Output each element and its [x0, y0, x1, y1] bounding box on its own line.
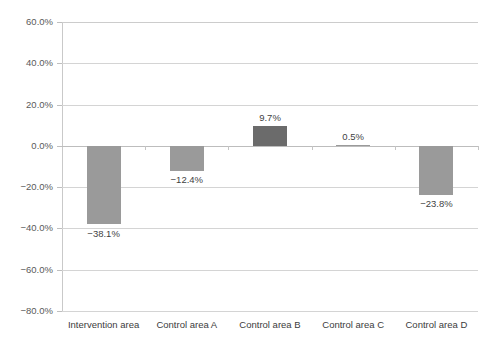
- x-axis-tick: [145, 146, 146, 150]
- gridline: [62, 105, 478, 106]
- gridline: [62, 270, 478, 271]
- y-axis-tick-label: 0.0%: [0, 141, 53, 151]
- plot-area: [62, 22, 478, 311]
- bar: [170, 146, 204, 172]
- gridline: [62, 63, 478, 64]
- y-axis-tick-label: −60.0%: [0, 265, 53, 275]
- y-axis-tick-label: 20.0%: [0, 100, 53, 110]
- y-axis-tick-label: −20.0%: [0, 182, 53, 192]
- bar: [336, 145, 370, 147]
- gridline: [62, 187, 478, 188]
- gridline: [62, 146, 478, 147]
- bar-value-label: −23.8%: [401, 199, 471, 209]
- gridline: [62, 22, 478, 23]
- bar-value-label: −12.4%: [152, 175, 222, 185]
- bar-value-label: 9.7%: [235, 113, 305, 123]
- y-axis-tick-label: 40.0%: [0, 58, 53, 68]
- x-axis-tick: [395, 146, 396, 150]
- x-axis-tick: [228, 146, 229, 150]
- bar-value-label: 0.5%: [318, 132, 388, 142]
- x-axis-category-label: Control area D: [386, 320, 486, 330]
- x-axis-tick: [478, 146, 479, 150]
- y-axis-tick-label: 60.0%: [0, 17, 53, 27]
- bar: [253, 126, 287, 146]
- y-axis-tick-label: −80.0%: [0, 306, 53, 316]
- x-axis-tick: [312, 146, 313, 150]
- bar: [419, 146, 453, 195]
- bar-value-label: −38.1%: [69, 229, 139, 239]
- gridline: [62, 311, 478, 312]
- bar-chart: 60.0%40.0%20.0%0.0%−20.0%−40.0%−60.0%−80…: [0, 0, 495, 345]
- y-axis-tick-label: −40.0%: [0, 223, 53, 233]
- bar: [87, 146, 121, 225]
